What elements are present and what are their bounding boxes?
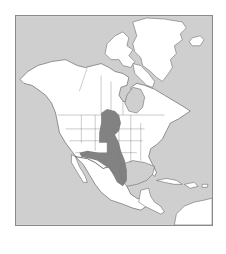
map-canvas [16,16,212,225]
range-map: Range map of North America [15,15,213,226]
puerto-rico [202,184,208,187]
